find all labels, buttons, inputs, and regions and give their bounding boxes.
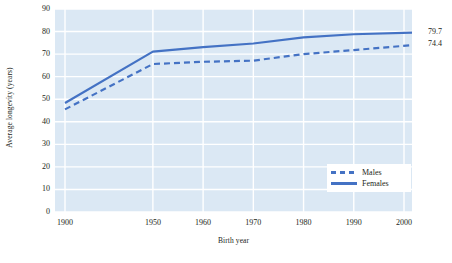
y-axis-title-container: Average longevity (years) — [0, 0, 18, 215]
longevity-line-chart: Average longevity (years) 01020304050607… — [0, 0, 452, 263]
x-tick-label: 1960 — [183, 218, 223, 227]
data-label-males: 74.4 — [428, 39, 442, 48]
y-axis-title: Average longevity (years) — [5, 67, 14, 147]
legend-label-males: Males — [362, 167, 382, 178]
y-tick-label: 90 — [22, 4, 50, 13]
x-tick-label: 1990 — [334, 218, 374, 227]
legend-label-females: Females — [362, 178, 389, 189]
x-tick-label: 1950 — [133, 218, 173, 227]
x-tick-label: 2000 — [384, 218, 424, 227]
y-tick-label: 40 — [22, 117, 50, 126]
x-axis-title: Birth year — [218, 236, 249, 245]
y-tick-label: 80 — [22, 27, 50, 36]
y-tick-label: 20 — [22, 162, 50, 171]
legend-item-males: Males — [331, 167, 407, 178]
y-tick-label: 0 — [22, 207, 50, 216]
y-tick-label: 10 — [22, 184, 50, 193]
legend-item-females: Females — [331, 178, 407, 189]
x-tick-label: 1980 — [284, 218, 324, 227]
x-tick-label: 1900 — [45, 218, 85, 227]
x-axis-title-container: Birth year — [55, 236, 412, 245]
y-tick-label: 30 — [22, 139, 50, 148]
y-tick-label: 60 — [22, 72, 50, 81]
x-tick-label: 1970 — [233, 218, 273, 227]
y-tick-label: 50 — [22, 94, 50, 103]
data-label-females: 79.7 — [428, 27, 442, 36]
y-tick-label: 70 — [22, 49, 50, 58]
chart-legend: Males Females — [327, 164, 411, 192]
legend-swatch-dashed — [331, 167, 357, 178]
legend-swatch-solid — [331, 178, 357, 189]
